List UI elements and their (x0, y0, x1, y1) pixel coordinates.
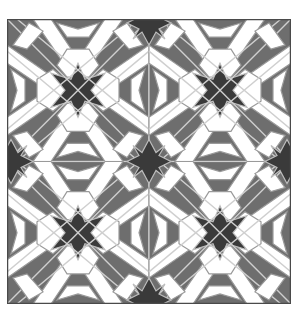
tile-bottom-right (149, 162, 291, 305)
center-star (127, 139, 171, 183)
tile-top-left (7, 19, 149, 162)
tile-bottom-left (7, 162, 149, 305)
geometric-tiling-pattern (7, 19, 291, 304)
tile-top-right (149, 19, 291, 162)
